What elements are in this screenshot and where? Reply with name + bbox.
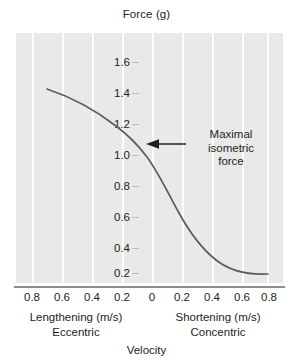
annotation-line-2: isometric bbox=[185, 142, 277, 156]
axis-group-right-line1: Shortening (m/s) bbox=[148, 310, 288, 325]
axis-group-left-line2: Eccentric bbox=[6, 325, 146, 340]
x-tick-label-0.8: 0.8 bbox=[256, 291, 282, 303]
annotation-line-1: Maximal bbox=[185, 128, 277, 142]
left-arrow-icon bbox=[146, 137, 188, 151]
axis-group-shortening-concentric: Shortening (m/s) Concentric bbox=[148, 310, 288, 340]
axis-group-left-line1: Lengthening (m/s) bbox=[6, 310, 146, 325]
x-tick-label-neg0.6: 0.6 bbox=[49, 291, 75, 303]
x-tick-label-0: 0 bbox=[139, 291, 165, 303]
x-tick-row: 0.8 0.6 0.4 0.2 0 0.2 0.4 0.6 0.8 bbox=[16, 291, 283, 307]
x-tick-label-neg0.8: 0.8 bbox=[19, 291, 45, 303]
x-tick-label-neg0.4: 0.4 bbox=[79, 291, 105, 303]
x-axis-line bbox=[14, 286, 285, 288]
annotation-maximal-isometric-force: Maximal isometric force bbox=[185, 128, 277, 169]
annotation-line-3: force bbox=[185, 155, 277, 169]
x-tick-label-0.4: 0.4 bbox=[199, 291, 225, 303]
axis-group-lengthening-eccentric: Lengthening (m/s) Eccentric bbox=[6, 310, 146, 340]
force-velocity-figure: Force (g) 1.6 1.4 1.2 1.0 0.8 0.6 0.4 0.… bbox=[0, 0, 293, 364]
x-axis-group-labels: Lengthening (m/s) Eccentric Shortening (… bbox=[0, 310, 293, 344]
x-tick-label-0.2: 0.2 bbox=[169, 291, 195, 303]
x-axis-title: Velocity bbox=[0, 344, 293, 356]
chart-title: Force (g) bbox=[0, 8, 293, 20]
x-tick-label-neg0.2: 0.2 bbox=[109, 291, 135, 303]
x-tick-label-0.6: 0.6 bbox=[229, 291, 255, 303]
figure-caption bbox=[0, 357, 293, 364]
axis-group-right-line2: Concentric bbox=[148, 325, 288, 340]
